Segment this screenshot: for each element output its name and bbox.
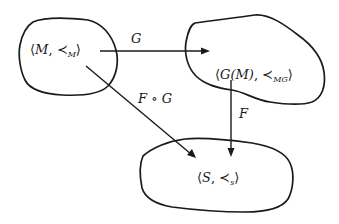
diagram-canvas (0, 0, 339, 224)
set-gm-blob (185, 15, 324, 104)
edge-label-f-compose-g: F ∘ G (138, 92, 172, 105)
node-label-gm: ⟨G(M), ≺MG⟩ (215, 68, 293, 84)
node-label-s: ⟨S, ≺s⟩ (197, 171, 239, 187)
edge-label-g: G (131, 32, 141, 45)
arrow-f (228, 80, 235, 157)
node-label-m: ⟨M, ≺M⟩ (30, 43, 81, 59)
arrow-f-compose-g (86, 66, 196, 158)
edge-label-f: F (239, 107, 248, 120)
